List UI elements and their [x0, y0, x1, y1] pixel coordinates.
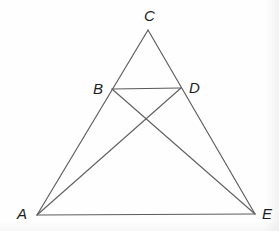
- vertex-label-B: B: [93, 81, 103, 96]
- vertex-label-C: C: [144, 8, 155, 23]
- cevian-BE: [112, 89, 255, 214]
- side-CE: [148, 30, 255, 214]
- figure-canvas: Triangle ACE with midsegment BD and cevi…: [0, 0, 279, 231]
- vertex-label-D: D: [189, 80, 200, 95]
- side-AE: [37, 214, 255, 215]
- side-AC: [37, 30, 148, 215]
- cevian-AD: [37, 88, 181, 215]
- vertex-label-E: E: [262, 206, 272, 221]
- segment-BD: [112, 88, 181, 89]
- geometry-figure: Triangle ACE with midsegment BD and cevi…: [0, 0, 279, 231]
- vertex-label-A: A: [17, 206, 27, 221]
